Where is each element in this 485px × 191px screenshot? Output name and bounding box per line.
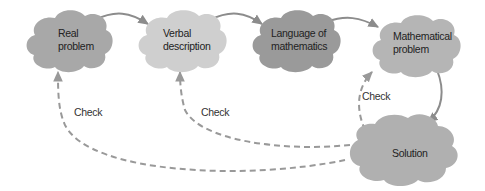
node-real-problem: Real problem bbox=[27, 10, 113, 72]
check-label-verbal: Check bbox=[201, 106, 230, 118]
node-solution: Solution bbox=[350, 114, 458, 186]
node-label-line1: Real bbox=[58, 27, 78, 39]
check-label-real: Check bbox=[74, 106, 103, 118]
node-label-line1: Verbal bbox=[163, 27, 191, 39]
node-label-line1: Mathematical bbox=[393, 30, 452, 42]
node-label: Solution bbox=[392, 147, 428, 159]
check-label-mathematical: Check bbox=[362, 90, 391, 102]
node-label-line2: problem bbox=[393, 43, 429, 55]
node-label-line2: description bbox=[163, 40, 211, 52]
arrow-mathematical-to-solution bbox=[428, 70, 442, 122]
node-label-line2: problem bbox=[58, 40, 94, 52]
node-mathematical-problem: Mathematical problem bbox=[373, 15, 461, 77]
node-label-line2: mathematics bbox=[271, 40, 327, 52]
check-arrow-to-real-problem bbox=[58, 72, 345, 171]
node-verbal-description: Verbal description bbox=[139, 10, 227, 72]
node-label-line1: Language of bbox=[271, 27, 326, 39]
node-language-of-mathematics: Language of mathematics bbox=[253, 10, 341, 72]
modeling-cycle-diagram: Real problem Verbal description Language… bbox=[0, 0, 485, 191]
